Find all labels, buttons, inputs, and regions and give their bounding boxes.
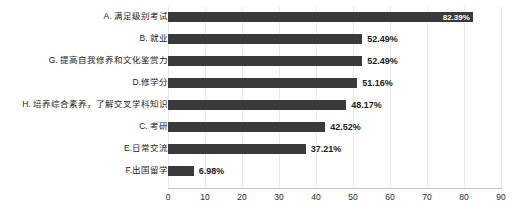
horizontal-bar-chart: A. 满足级别考试82.39%B. 就业52.49%G. 提高自我修养和文化鉴赏…: [0, 0, 512, 217]
bar-value-label: 6.98%: [199, 166, 225, 176]
x-tick-label: 60: [385, 192, 394, 202]
bar[interactable]: [168, 100, 346, 110]
bar-value-label: 48.17%: [351, 100, 382, 110]
bar-holder: 42.52%: [168, 122, 361, 132]
x-axis-line: [168, 188, 502, 189]
bar-value-label: 52.49%: [367, 34, 398, 44]
bar[interactable]: [168, 78, 357, 88]
bar-holder: 37.21%: [168, 144, 341, 154]
bar-value-label: 82.39%: [443, 13, 470, 22]
x-tick-label: 30: [274, 192, 283, 202]
x-tick-label: 20: [237, 192, 246, 202]
x-tick-label: 80: [459, 192, 468, 202]
bar-holder: 51.16%: [168, 78, 393, 88]
x-tick-label: 40: [311, 192, 320, 202]
bar-wrapper: 37.21%: [168, 138, 341, 160]
bar-wrapper: 48.17%: [168, 94, 382, 116]
bar-row: E.日常交流37.21%: [0, 138, 512, 160]
bar-value-label: 51.16%: [362, 78, 393, 88]
category-label: D.修学分: [2, 78, 168, 87]
bar-row: A. 满足级别考试82.39%: [0, 6, 512, 28]
bar-wrapper: 6.98%: [168, 160, 224, 182]
bar-row: F.出国留学6.98%: [0, 160, 512, 182]
bar[interactable]: 82.39%: [168, 12, 473, 22]
category-label: F.出国留学: [2, 166, 168, 175]
x-tick-label: 50: [348, 192, 357, 202]
bar-row: D.修学分51.16%: [0, 72, 512, 94]
bar-value-label: 52.49%: [367, 56, 398, 66]
x-tick-label: 90: [496, 192, 505, 202]
bar-row: C. 考研42.52%: [0, 116, 512, 138]
bar-holder: 82.39%: [168, 12, 473, 22]
category-label: G. 提高自我修养和文化鉴赏力: [2, 56, 168, 65]
category-label: H. 培养综合素养，了解交叉学科知识: [2, 100, 168, 109]
x-tick-label: 0: [166, 192, 171, 202]
bar-wrapper: 52.49%: [168, 50, 398, 72]
bar-wrapper: 51.16%: [168, 72, 393, 94]
x-tick-label: 70: [422, 192, 431, 202]
category-label: E.日常交流: [2, 144, 168, 153]
bar-value-label: 42.52%: [330, 122, 361, 132]
x-tick-label: 10: [200, 192, 209, 202]
category-label: C. 考研: [2, 122, 168, 131]
bar-wrapper: 42.52%: [168, 116, 361, 138]
category-label: A. 满足级别考试: [2, 12, 168, 21]
bar[interactable]: [168, 56, 362, 66]
bar-holder: 52.49%: [168, 34, 398, 44]
bar-wrapper: 52.49%: [168, 28, 398, 50]
x-axis-tick-labels: 0102030405060708090: [0, 190, 512, 210]
bar-holder: 48.17%: [168, 100, 382, 110]
bar[interactable]: [168, 166, 194, 176]
bar[interactable]: [168, 34, 362, 44]
bar-holder: 6.98%: [168, 166, 224, 176]
bar-wrapper: 82.39%: [168, 6, 473, 28]
bar-rows: A. 满足级别考试82.39%B. 就业52.49%G. 提高自我修养和文化鉴赏…: [0, 0, 512, 188]
bar-row: G. 提高自我修养和文化鉴赏力52.49%: [0, 50, 512, 72]
bar-value-label: 37.21%: [311, 144, 342, 154]
bar-row: B. 就业52.49%: [0, 28, 512, 50]
bar-holder: 52.49%: [168, 56, 398, 66]
category-label: B. 就业: [2, 34, 168, 43]
bar[interactable]: [168, 122, 325, 132]
bar-row: H. 培养综合素养，了解交叉学科知识48.17%: [0, 94, 512, 116]
bar[interactable]: [168, 144, 306, 154]
